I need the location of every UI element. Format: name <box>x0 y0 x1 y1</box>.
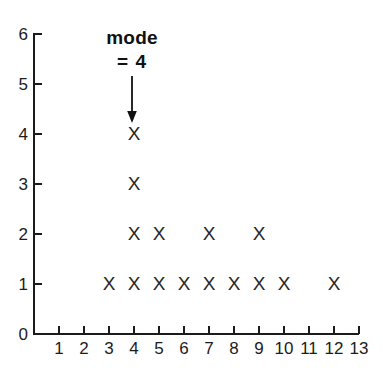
mode-annotation-line2: = 4 <box>82 50 182 74</box>
x-axis-tick <box>258 326 260 334</box>
data-marker: X <box>124 274 144 294</box>
y-axis-tick-label: 6 <box>6 26 28 43</box>
y-axis-tick <box>35 233 42 235</box>
data-marker: X <box>149 224 169 244</box>
x-axis-tick <box>208 326 210 334</box>
down-arrow-icon <box>122 76 142 124</box>
x-axis-tick <box>183 326 185 334</box>
x-axis-tick <box>133 326 135 334</box>
data-marker: X <box>249 224 269 244</box>
y-axis-tick <box>35 33 42 35</box>
data-marker: X <box>174 274 194 294</box>
data-marker: X <box>124 174 144 194</box>
data-marker: X <box>274 274 294 294</box>
x-axis-tick <box>108 326 110 334</box>
x-axis-tick <box>158 326 160 334</box>
mode-annotation: mode = 4 <box>82 26 182 74</box>
data-marker: X <box>124 124 144 144</box>
y-axis-tick-label: 0 <box>6 326 28 343</box>
data-marker: X <box>199 224 219 244</box>
data-marker: X <box>149 274 169 294</box>
mode-annotation-line1: mode <box>82 26 182 50</box>
x-axis-tick <box>83 326 85 334</box>
y-axis-tick-label: 4 <box>6 126 28 143</box>
data-marker: X <box>224 274 244 294</box>
x-axis-tick <box>283 326 285 334</box>
y-axis-tick-label: 3 <box>6 176 28 193</box>
data-marker: X <box>249 274 269 294</box>
y-axis-tick <box>35 133 42 135</box>
x-axis-tick-label: 13 <box>344 340 374 357</box>
x-axis-tick <box>333 326 335 334</box>
data-marker: X <box>324 274 344 294</box>
x-axis-tick <box>308 326 310 334</box>
y-axis-tick-label: 2 <box>6 226 28 243</box>
data-marker: X <box>199 274 219 294</box>
x-axis-tick <box>233 326 235 334</box>
y-axis-tick-label: 1 <box>6 276 28 293</box>
y-axis-tick <box>35 283 42 285</box>
x-axis-tick <box>58 326 60 334</box>
y-axis-tick <box>35 83 42 85</box>
x-axis-tick <box>358 326 360 334</box>
y-axis-tick-label: 5 <box>6 76 28 93</box>
data-marker: X <box>99 274 119 294</box>
x-axis-line <box>33 333 359 335</box>
data-marker: X <box>124 224 144 244</box>
y-axis-tick <box>35 183 42 185</box>
dot-plot-chart: 0123456 12345678910111213 XXXXXXXXXXXXXX… <box>0 0 383 373</box>
